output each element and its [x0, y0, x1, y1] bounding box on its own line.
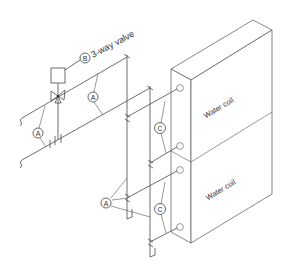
pipe-break-symbol — [20, 118, 22, 126]
flange-mark — [125, 119, 130, 122]
tag-a-upper: A — [88, 92, 98, 102]
tag-a-lower: A — [101, 198, 111, 208]
tag-c-lower: C — [155, 204, 166, 215]
flange-mark — [125, 199, 130, 202]
svg-text:C: C — [157, 125, 162, 132]
return-pipe — [22, 88, 150, 160]
branch-lower-return — [150, 228, 177, 242]
leader-line — [65, 60, 80, 70]
leader-line — [161, 101, 165, 123]
riser-end-cap — [150, 248, 155, 257]
supply-pipe — [22, 57, 127, 118]
piping — [20, 54, 177, 257]
leader-line — [111, 206, 150, 217]
leader-line — [161, 133, 166, 153]
piping-diagram: Water coil Water coil — [0, 0, 293, 279]
leader-line — [39, 106, 45, 128]
tag-c-upper: C — [155, 123, 166, 134]
branch-lower-supply — [127, 171, 177, 198]
coil-front-face — [171, 69, 191, 243]
tag-b-valve: B — [80, 53, 90, 63]
valve-center — [57, 95, 60, 98]
flange-mark — [148, 244, 153, 247]
svg-text:A: A — [104, 200, 109, 207]
svg-text:A: A — [36, 130, 41, 137]
branch-upper-supply — [127, 89, 177, 117]
svg-text:B: B — [83, 55, 88, 62]
three-way-valve — [51, 60, 80, 103]
valve-actuator — [51, 68, 65, 83]
tag-a-left: A — [33, 128, 43, 138]
leader-line — [161, 182, 165, 204]
valve-label: 3-way valve — [89, 29, 136, 60]
flange-mark — [148, 165, 153, 168]
svg-text:A: A — [91, 94, 96, 101]
leader-line — [94, 102, 103, 115]
svg-text:C: C — [157, 206, 162, 213]
water-coil-assembly: Water coil Water coil — [171, 20, 272, 243]
leader-line — [111, 178, 127, 198]
leader-line — [40, 138, 46, 147]
pipe-break-symbol — [20, 160, 22, 168]
leader-line — [161, 214, 166, 233]
